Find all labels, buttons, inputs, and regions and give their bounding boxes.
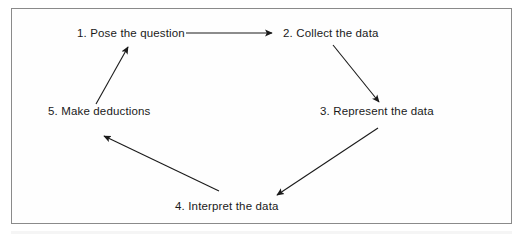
node-label-pose-the-question: 1. Pose the question bbox=[77, 26, 185, 40]
arrow-4-to-5 bbox=[104, 136, 219, 191]
node-label-collect-the-data: 2. Collect the data bbox=[283, 26, 379, 40]
diagram-canvas: 1. Pose the question 2. Collect the data… bbox=[0, 0, 527, 240]
arrow-5-to-1 bbox=[96, 47, 128, 104]
node-label-make-deductions: 5. Make deductions bbox=[48, 104, 150, 118]
node-label-represent-the-data: 3. Represent the data bbox=[320, 104, 434, 118]
arrow-2-to-3 bbox=[333, 45, 379, 102]
node-label-interpret-the-data: 4. Interpret the data bbox=[175, 199, 279, 213]
arrow-3-to-4 bbox=[277, 128, 378, 195]
scan-artifact bbox=[11, 231, 512, 234]
